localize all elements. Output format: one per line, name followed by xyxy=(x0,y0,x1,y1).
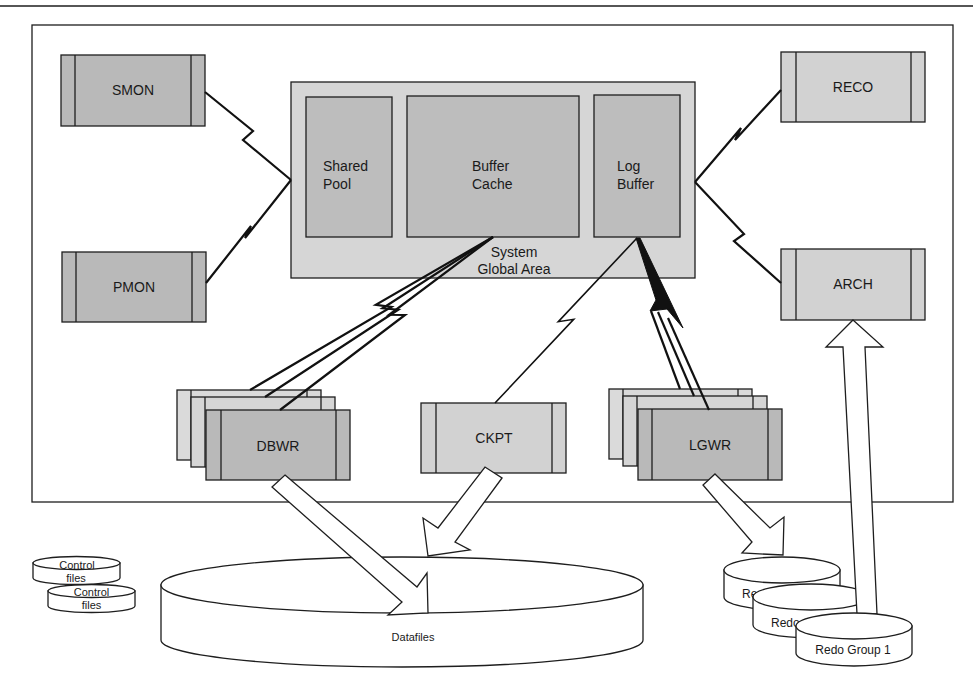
redo-group-back-top xyxy=(724,557,840,583)
shared-pool-label-line1: Shared xyxy=(323,158,368,174)
lgwr-lightning-line-1 xyxy=(651,311,680,389)
sga-label-line2: Global Area xyxy=(477,261,550,277)
control-files-2-label-line1: Control xyxy=(74,586,109,598)
sga-label-line1: System xyxy=(491,244,538,260)
pmon-label: PMON xyxy=(113,279,155,295)
lgwr-to-redo-arrow-icon xyxy=(703,474,784,555)
buffer-cache: Buffer Cache xyxy=(407,96,579,237)
buffer-cache-label-line1: Buffer xyxy=(472,158,509,174)
control-files-2-label-line2: files xyxy=(82,599,102,611)
buffer-cache-label-line2: Cache xyxy=(472,176,513,192)
ckpt-to-datafiles-arrow-icon xyxy=(423,467,502,556)
lgwr-process-stack: LGWR xyxy=(609,389,782,480)
control-files-1: Control files xyxy=(33,557,120,585)
sga-reco-lightning-icon xyxy=(695,90,781,182)
sga-arch-lightning-icon xyxy=(695,182,781,283)
reco-process: RECO xyxy=(781,52,925,122)
system-global-area: Shared Pool Buffer Cache Log Buffer Syst… xyxy=(291,82,695,278)
ckpt-label: CKPT xyxy=(475,430,513,446)
arch-label: ARCH xyxy=(833,276,873,292)
smon-process: SMON xyxy=(61,55,205,126)
oracle-architecture-diagram: Shared Pool Buffer Cache Log Buffer Syst… xyxy=(0,0,973,690)
log-buffer-label-line2: Buffer xyxy=(617,176,654,192)
smon-sga-lightning-icon xyxy=(205,92,291,180)
redo-group-1: Redo Group 1 xyxy=(796,613,912,666)
redo-group-1-label: Redo Group 1 xyxy=(815,643,891,657)
control-files-1-label-line1: Control xyxy=(59,559,94,571)
reco-label: RECO xyxy=(833,79,874,95)
shared-pool: Shared Pool xyxy=(306,97,392,237)
log-buffer-label-line1: Log xyxy=(617,158,640,174)
lgwr-lightning-line-2 xyxy=(658,312,694,396)
control-files-2: Control files xyxy=(48,585,135,613)
dbwr-process-stack: DBWR xyxy=(177,390,350,480)
smon-label: SMON xyxy=(112,82,154,98)
dbwr-label: DBWR xyxy=(257,438,300,454)
pmon-sga-lightning-icon xyxy=(206,180,291,283)
redo-group-middle-top xyxy=(753,584,869,610)
arch-process: ARCH xyxy=(781,249,925,320)
log-buffer: Log Buffer xyxy=(594,95,680,237)
datafiles-label: Datafiles xyxy=(392,631,435,643)
control-files-1-label-line2: files xyxy=(66,572,86,584)
shared-pool-label-line2: Pool xyxy=(323,176,351,192)
redo-group-1-top xyxy=(796,613,912,639)
lgwr-label: LGWR xyxy=(689,437,731,453)
ckpt-process: CKPT xyxy=(421,403,566,473)
pmon-process: PMON xyxy=(62,252,206,322)
